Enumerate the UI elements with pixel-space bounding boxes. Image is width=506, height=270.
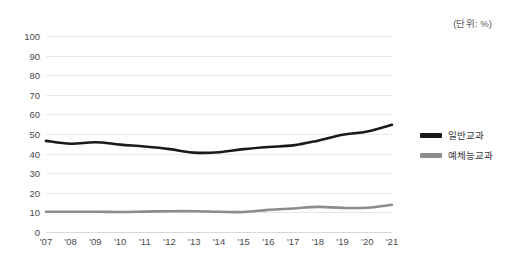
x-axis-labels: '07'08'09'10'11'12'13'14'15'16'17'18'19'… [46,236,392,256]
plot-area [46,36,392,232]
x-axis-tick-label: '07 [40,236,52,247]
series-line [46,125,392,153]
x-axis-tick-label: '21 [386,236,398,247]
x-axis-tick-label: '18 [312,236,324,247]
legend-swatch-icon [420,153,442,158]
series-lines [46,36,392,232]
gridline [46,232,392,233]
y-axis-tick-label: 30 [29,168,40,179]
line-chart: (단위: %) 0102030405060708090100 '07'08'09… [0,0,506,270]
x-axis-tick-label: '16 [262,236,274,247]
unit-note: (단위: %) [453,16,492,30]
y-axis-tick-label: 20 [29,187,40,198]
x-axis-tick-label: '13 [188,236,200,247]
chart-legend: 일반교과예체능교과 [420,128,493,162]
legend-item[interactable]: 예체능교과 [420,148,493,162]
series-line [46,205,392,212]
x-axis-tick-label: '09 [89,236,101,247]
y-axis-tick-label: 10 [29,207,40,218]
x-axis-tick-label: '14 [213,236,225,247]
x-axis-tick-label: '08 [65,236,77,247]
x-axis-tick-label: '20 [361,236,373,247]
legend-item-label: 일반교과 [448,128,484,142]
x-axis-tick-label: '12 [163,236,175,247]
x-axis-tick-label: '11 [139,236,151,247]
x-axis-tick-label: '10 [114,236,126,247]
x-axis-tick-label: '19 [336,236,348,247]
y-axis-tick-label: 100 [24,31,40,42]
y-axis-tick-label: 90 [29,50,40,61]
y-axis-labels: 0102030405060708090100 [0,36,40,232]
y-axis-tick-label: 40 [29,148,40,159]
legend-swatch-icon [420,133,442,138]
x-axis-tick-label: '15 [238,236,250,247]
legend-item[interactable]: 일반교과 [420,128,493,142]
y-axis-tick-label: 50 [29,129,40,140]
y-axis-tick-label: 60 [29,109,40,120]
y-axis-tick-label: 70 [29,89,40,100]
x-axis-tick-label: '17 [287,236,299,247]
legend-item-label: 예체능교과 [448,148,493,162]
y-axis-tick-label: 80 [29,70,40,81]
